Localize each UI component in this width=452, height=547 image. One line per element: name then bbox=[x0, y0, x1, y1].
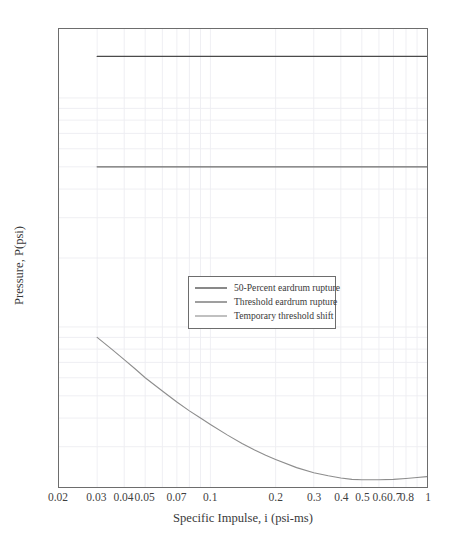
legend-item-0: 50-Percent eardrum rupture bbox=[195, 281, 329, 295]
x-tick-label: 0.3 bbox=[307, 492, 321, 504]
legend-item-2: Temporary threshold shift bbox=[195, 309, 329, 323]
x-tick-label: 0.02 bbox=[48, 492, 68, 504]
x-tick-label: 0.4 bbox=[334, 492, 348, 504]
legend-line-icon-1 bbox=[195, 297, 227, 307]
x-tick-label: 0.03 bbox=[86, 492, 106, 504]
x-axis-title: Specific Impulse, i (psi-ms) bbox=[58, 511, 428, 526]
legend-label-1: Threshold eardrum rupture bbox=[234, 297, 337, 307]
figure-chart: Pressure, P(psi) 0.20.30.40.50.60.70.80.… bbox=[0, 0, 452, 547]
legend-line-icon-2 bbox=[195, 311, 227, 321]
x-tick-label: 0.6 bbox=[372, 492, 386, 504]
legend-item-1: Threshold eardrum rupture bbox=[195, 295, 329, 309]
x-tick-label: 0.07 bbox=[166, 492, 186, 504]
legend: 50-Percent eardrum rupture Threshold ear… bbox=[188, 276, 336, 329]
legend-label-2: Temporary threshold shift bbox=[234, 311, 334, 321]
plot-area bbox=[58, 28, 428, 488]
x-tick-label: 0.1 bbox=[203, 492, 217, 504]
series-line-2 bbox=[97, 337, 427, 479]
legend-line-icon-0 bbox=[195, 283, 227, 293]
x-tick-label: 0.5 bbox=[355, 492, 369, 504]
x-tick-label: 0.2 bbox=[269, 492, 283, 504]
x-tick-label: 0.04 bbox=[113, 492, 133, 504]
x-tick-label: 1 bbox=[425, 492, 431, 504]
data-series-layer bbox=[59, 29, 427, 487]
x-tick-label: 0.8 bbox=[400, 492, 414, 504]
legend-label-0: 50-Percent eardrum rupture bbox=[234, 283, 340, 293]
x-tick-label: 0.05 bbox=[135, 492, 155, 504]
